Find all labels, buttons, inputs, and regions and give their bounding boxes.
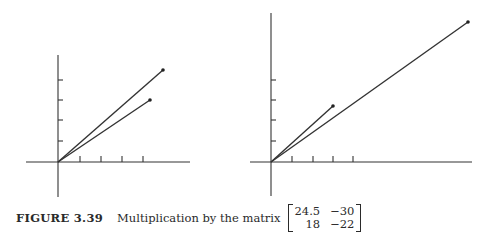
left-vector-1 <box>58 70 163 162</box>
right-bracket <box>356 204 361 232</box>
right-vector-long <box>271 22 468 162</box>
right-vector-long-endpoint <box>466 20 470 24</box>
right-x-ticks <box>292 156 353 162</box>
right-y-ticks <box>271 80 276 141</box>
left-vector-2-endpoint <box>148 98 152 102</box>
figure-caption: FIGURE 3.39 Multiplication by the matrix… <box>16 204 361 232</box>
left-y-ticks <box>58 80 63 141</box>
left-plot <box>26 55 190 197</box>
left-vector-1-endpoint <box>161 68 165 72</box>
left-vector-2 <box>58 100 150 162</box>
figure-label: FIGURE 3.39 <box>16 211 103 225</box>
matrix-cell-22: −22 <box>330 218 354 231</box>
left-x-ticks <box>80 156 143 162</box>
matrix-cell-21: 18 <box>295 218 321 231</box>
right-plot <box>250 13 472 196</box>
right-vector-short <box>271 106 333 162</box>
figure-plots <box>0 0 497 200</box>
matrix: 24.5 −30 18 −22 <box>288 204 362 232</box>
caption-text: Multiplication by the matrix <box>117 211 281 225</box>
right-vector-short-endpoint <box>331 104 335 108</box>
